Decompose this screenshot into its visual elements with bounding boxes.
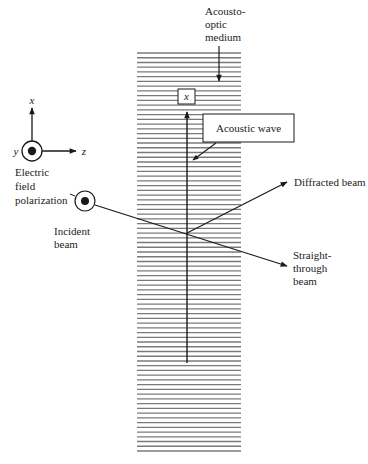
incident-beam-label-line-1: Incident — [54, 225, 90, 237]
polarization-label-line-2: field — [15, 180, 36, 192]
medium-label-line-3: medium — [205, 31, 241, 43]
acousto-optic-diagram: Acousto- optic medium x Acoustic wave Di… — [0, 0, 368, 464]
polarization-label-line-3: polarization — [15, 194, 68, 206]
medium-label-line-2: optic — [205, 18, 227, 30]
coord-z-label: z — [81, 145, 87, 157]
acoustic-wave-label: Acoustic wave — [216, 122, 281, 134]
polarization-symbol — [70, 191, 95, 211]
straight-through-label-line-3: beam — [293, 275, 317, 287]
polarization-leader-line — [70, 194, 75, 196]
polarization-dot-icon — [81, 197, 89, 205]
axis-label-box: x — [178, 89, 195, 104]
acousto-optic-medium-grating — [137, 53, 241, 451]
medium-label-line-1: Acousto- — [205, 5, 246, 17]
medium-label-group: Acousto- optic medium — [205, 5, 246, 81]
axis-box-text: x — [183, 90, 189, 102]
coord-y-dot-icon — [28, 147, 36, 155]
incident-beam-label-line-2: beam — [54, 238, 78, 250]
polarization-label-line-1: Electric — [15, 166, 49, 178]
coord-x-label: x — [29, 94, 35, 106]
straight-through-label-line-2: through — [293, 262, 328, 274]
coordinate-system: x y z — [13, 94, 87, 161]
straight-through-label-line-1: Straight- — [293, 249, 332, 261]
diffracted-beam-arrow — [187, 182, 287, 233]
coord-y-label: y — [13, 145, 19, 157]
diffracted-beam-label: Diffracted beam — [294, 176, 366, 188]
